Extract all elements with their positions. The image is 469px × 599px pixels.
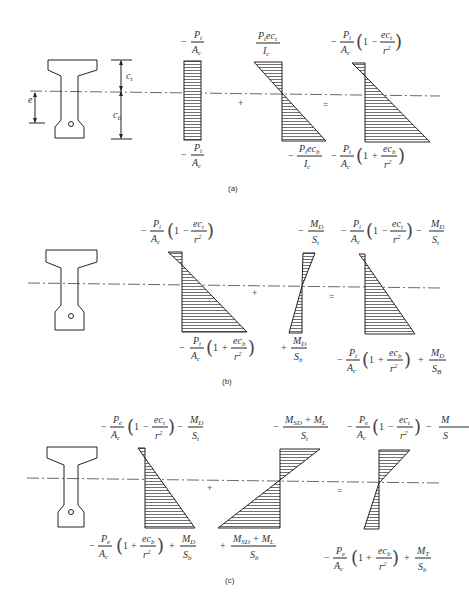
- prestressed-beam-stress-diagram: e ct cb − Pi Ac − Pi Ac + Piect Ic: [0, 0, 469, 599]
- eccentric-top-triangle-a: [254, 62, 282, 93]
- prestress-top-triangle-b: [168, 252, 182, 265]
- cb-label-a: cb: [113, 109, 121, 122]
- resultant-top-trapezoid-c: [379, 450, 410, 483]
- resultant-bottom-label-a: − Pi Ac ( 1 + ecb r2 ): [331, 143, 405, 171]
- svg-text:r2: r2: [383, 44, 391, 56]
- svg-text:MD: MD: [181, 533, 195, 546]
- tendon-icon-c: [69, 510, 74, 515]
- svg-text:−: −: [341, 225, 347, 236]
- svg-text:+: +: [222, 342, 228, 353]
- svg-text:r2: r2: [379, 560, 387, 572]
- resultant-bottom-trapezoid-b: [365, 262, 415, 334]
- svg-text:Ac: Ac: [98, 548, 109, 561]
- svg-text:Pe: Pe: [335, 545, 345, 558]
- svg-text:Pi: Pi: [348, 347, 357, 360]
- svg-text:Pe: Pe: [358, 414, 368, 427]
- svg-text:Ac: Ac: [356, 429, 367, 442]
- svg-text:+: +: [131, 540, 137, 551]
- svg-text:1: 1: [363, 36, 368, 47]
- svg-text:(: (: [362, 349, 369, 370]
- svg-text:MD: MD: [430, 218, 444, 231]
- svg-text:+: +: [220, 540, 226, 551]
- svg-text:−: −: [179, 342, 185, 353]
- svg-text:+: +: [366, 552, 372, 563]
- svg-text:1: 1: [174, 225, 179, 236]
- svg-text:MT: MT: [416, 545, 430, 558]
- axial-stress-bottom-label-a: − Pi Ac: [181, 142, 204, 170]
- svg-text:): ): [157, 535, 164, 556]
- svg-text:Ac: Ac: [150, 233, 161, 246]
- eccentric-bottom-triangle-a: [282, 93, 326, 141]
- svg-text:−: −: [89, 540, 95, 551]
- svg-text:St: St: [432, 234, 440, 247]
- panel-a: e ct cb − Pi Ac − Pi Ac + Piect Ic: [28, 29, 440, 193]
- svg-text:Pi: Pi: [342, 143, 351, 156]
- resultant-bottom-label-c: − Pe Ac ( 1 + ecb r2 ) + MT Sb: [324, 545, 431, 574]
- svg-text:(: (: [116, 535, 123, 556]
- prestress-bottom-label-b: − Pi Ac ( 1 + ecb r2 ): [179, 335, 255, 363]
- svg-text:): ): [404, 349, 411, 370]
- beam-section-c: [47, 447, 97, 527]
- svg-text:+: +: [418, 354, 424, 365]
- svg-text:Ac: Ac: [190, 350, 201, 363]
- prestress-bottom-trapezoid-c: [145, 458, 195, 528]
- svg-text:Ic: Ic: [262, 45, 270, 58]
- svg-text:+: +: [169, 540, 175, 551]
- svg-text:Ac: Ac: [350, 233, 361, 246]
- resultant-bottom-triangle-c: [364, 483, 379, 529]
- svg-text:+: +: [372, 150, 378, 161]
- svg-text:(: (: [206, 337, 213, 358]
- svg-text:−: −: [141, 225, 147, 236]
- caption-c: (c): [225, 576, 235, 585]
- dead-load-bottom-triangle-b: [289, 286, 302, 333]
- svg-text:MSD + ML: MSD + ML: [284, 414, 326, 427]
- svg-text:Pi: Pi: [193, 142, 202, 155]
- svg-text:−: −: [372, 36, 378, 47]
- svg-text:S: S: [443, 430, 448, 441]
- svg-text:): ): [207, 220, 214, 241]
- svg-text:): ): [406, 220, 413, 241]
- svg-text:): ): [248, 337, 255, 358]
- resultant-top-label-b: − Pi Ac ( 1 − ect r2 ) − MD St: [341, 218, 444, 247]
- prestress-bottom-label-c: − Pe Ac ( 1 + ecb r2 ) + MD Sb: [89, 533, 196, 562]
- e-label-a: e: [28, 94, 33, 105]
- svg-text:r2: r2: [143, 548, 151, 560]
- dead-load-bottom-label-b: + MD Sb: [281, 335, 307, 364]
- svg-text:(: (: [356, 145, 363, 166]
- dead-load-top-triangle-b: [302, 253, 315, 286]
- prestress-bottom-trapezoid-b: [182, 265, 247, 332]
- svg-text:ect: ect: [399, 414, 411, 427]
- svg-text:−: −: [347, 421, 353, 432]
- eccentric-bottom-label-a: − Piecb Ic: [288, 143, 322, 171]
- svg-text:1: 1: [363, 150, 368, 161]
- svg-text:r2: r2: [400, 429, 408, 441]
- svg-text:−: −: [331, 150, 337, 161]
- resultant-bottom-label-b: − Pi Ac ( 1 + ecb r2 ) + MD SB: [337, 347, 446, 376]
- svg-text:r2: r2: [390, 362, 398, 374]
- svg-text:1: 1: [358, 552, 363, 563]
- equals-operator-c: =: [337, 485, 342, 495]
- svg-text:1: 1: [379, 421, 384, 432]
- svg-text:Pi: Pi: [352, 218, 361, 231]
- svg-text:Ic: Ic: [303, 158, 311, 171]
- svg-text:(: (: [351, 547, 358, 568]
- svg-text:ecb: ecb: [389, 347, 402, 360]
- svg-text:−: −: [331, 36, 337, 47]
- svg-text:(: (: [127, 416, 134, 437]
- svg-text:Sb: Sb: [250, 549, 259, 562]
- svg-text:−: −: [181, 36, 187, 47]
- svg-text:ecb: ecb: [383, 143, 396, 156]
- svg-text:1: 1: [123, 540, 128, 551]
- svg-text:Piecb: Piecb: [298, 143, 320, 156]
- svg-text:): ): [398, 145, 405, 166]
- axial-stress-top-label-a: − Pi Ac: [181, 29, 204, 57]
- resultant-top-label-c: − Pe Ac ( 1 − ect r2 ) − M S: [347, 414, 469, 442]
- plus-operator-a: +: [238, 98, 243, 108]
- svg-text:M: M: [440, 414, 450, 425]
- svg-text:Pi: Pi: [342, 29, 351, 42]
- svg-text:Pi: Pi: [152, 218, 161, 231]
- svg-text:Sb: Sb: [418, 561, 427, 574]
- svg-text:−: −: [288, 150, 294, 161]
- svg-text:MD: MD: [189, 414, 203, 427]
- resultant-top-triangle-b: [359, 254, 365, 262]
